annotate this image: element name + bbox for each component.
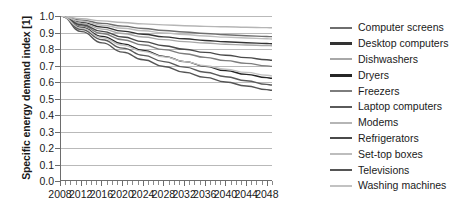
legend-item-label: Desktop computers [358, 38, 448, 49]
legend-item-label: Computer screens [358, 22, 444, 33]
y-axis-tick-label: 0.0 [18, 176, 54, 187]
x-axis-minor-tick [70, 181, 71, 185]
x-axis-minor-tick [256, 181, 257, 185]
x-axis-minor-tick [194, 181, 195, 185]
legend-line-swatch [330, 90, 352, 92]
x-axis-minor-tick [127, 181, 128, 185]
y-axis-tick-labels: 1.00.90.80.70.60.50.40.30.20.10.0 [18, 10, 54, 186]
legend-item-label: Dryers [358, 70, 389, 81]
legend-item[interactable]: Washing machines [330, 178, 455, 194]
y-axis-tick-label: 0.9 [18, 28, 54, 39]
legend-line-swatch [330, 27, 352, 29]
legend-item[interactable]: Televisions [330, 162, 455, 178]
x-axis-minor-tick [158, 181, 159, 185]
x-axis-minor-tick [179, 181, 180, 185]
x-axis-major-tick [184, 181, 185, 186]
legend-item-label: Set-top boxes [358, 149, 423, 160]
x-axis-major-tick [101, 181, 102, 186]
legend-item-label: Televisions [358, 165, 409, 176]
x-axis-minor-tick [153, 181, 154, 185]
x-axis-minor-tick [236, 181, 237, 185]
legend-item[interactable]: Dishwashers [330, 52, 455, 68]
legend-line-swatch [330, 106, 352, 108]
x-axis-major-tick [163, 181, 164, 186]
x-axis-minor-tick [262, 181, 263, 185]
x-axis-major-tick [143, 181, 144, 186]
legend-item-label: Dishwashers [358, 54, 418, 65]
x-axis-minor-tick [200, 181, 201, 185]
legend-item[interactable]: Freezers [330, 83, 455, 99]
y-axis-tick-label: 0.6 [18, 77, 54, 88]
x-axis-minor-tick [107, 181, 108, 185]
legend-item-label: Laptop computers [358, 101, 442, 112]
x-axis-tick-marks [60, 181, 272, 187]
legend-line-swatch [330, 122, 352, 124]
legend-item-label: Freezers [358, 86, 399, 97]
legend-item[interactable]: Refrigerators [330, 131, 455, 147]
x-axis-minor-tick [65, 181, 66, 185]
x-axis-minor-tick [117, 181, 118, 185]
x-axis-minor-tick [148, 181, 149, 185]
plot-area [60, 16, 272, 181]
legend-item-label: Modems [358, 117, 398, 128]
legend-line-swatch [330, 42, 352, 45]
y-axis-tick-label: 0.3 [18, 127, 54, 138]
legend-item-label: Refrigerators [358, 133, 419, 144]
legend-line-swatch [330, 185, 352, 187]
x-axis-minor-tick [96, 181, 97, 185]
x-axis-minor-tick [189, 181, 190, 185]
x-axis-minor-tick [220, 181, 221, 185]
legend-line-swatch [330, 58, 352, 60]
x-axis-major-tick [246, 181, 247, 186]
line-chart: Specific energy demand index [1] 1.00.90… [0, 0, 455, 218]
x-axis-minor-tick [174, 181, 175, 185]
y-axis-tick-label: 0.7 [18, 61, 54, 72]
y-axis-tick-label: 0.2 [18, 143, 54, 154]
x-axis-major-tick [81, 181, 82, 186]
x-axis-minor-tick [138, 181, 139, 185]
x-axis-minor-tick [210, 181, 211, 185]
legend-line-swatch [330, 169, 352, 171]
chart-legend: Computer screensDesktop computersDishwas… [330, 20, 455, 194]
series-lines [61, 16, 272, 180]
legend-item[interactable]: Dryers [330, 67, 455, 83]
y-axis-tick-label: 1.0 [18, 11, 54, 22]
x-axis-major-tick [122, 181, 123, 186]
x-axis-minor-tick [169, 181, 170, 185]
legend-item[interactable]: Computer screens [330, 20, 455, 36]
y-axis-tick-label: 0.1 [18, 160, 54, 171]
legend-line-swatch [330, 137, 352, 139]
x-axis-minor-tick [91, 181, 92, 185]
y-axis-tick-label: 0.4 [18, 110, 54, 121]
x-axis-minor-tick [112, 181, 113, 185]
x-axis-minor-tick [76, 181, 77, 185]
y-axis-tick-label: 0.5 [18, 94, 54, 105]
legend-line-swatch [330, 153, 352, 155]
x-axis-minor-tick [132, 181, 133, 185]
x-axis-minor-tick [215, 181, 216, 185]
x-axis-tick-labels: 2008201220162020202420282032203620402044… [60, 188, 272, 204]
legend-item[interactable]: Set-top boxes [330, 146, 455, 162]
x-axis-major-tick [267, 181, 268, 186]
x-axis-minor-tick [231, 181, 232, 185]
legend-item-label: Washing machines [358, 180, 446, 191]
legend-line-swatch [330, 74, 352, 77]
x-axis-major-tick [205, 181, 206, 186]
x-axis-tick-label: 2048 [247, 188, 287, 200]
x-axis-minor-tick [272, 181, 273, 185]
x-axis-minor-tick [86, 181, 87, 185]
legend-item[interactable]: Desktop computers [330, 36, 455, 52]
x-axis-major-tick [60, 181, 61, 186]
y-axis-tick-label: 0.8 [18, 44, 54, 55]
legend-item[interactable]: Modems [330, 115, 455, 131]
legend-item[interactable]: Laptop computers [330, 99, 455, 115]
x-axis-minor-tick [251, 181, 252, 185]
x-axis-major-tick [225, 181, 226, 186]
x-axis-minor-tick [241, 181, 242, 185]
